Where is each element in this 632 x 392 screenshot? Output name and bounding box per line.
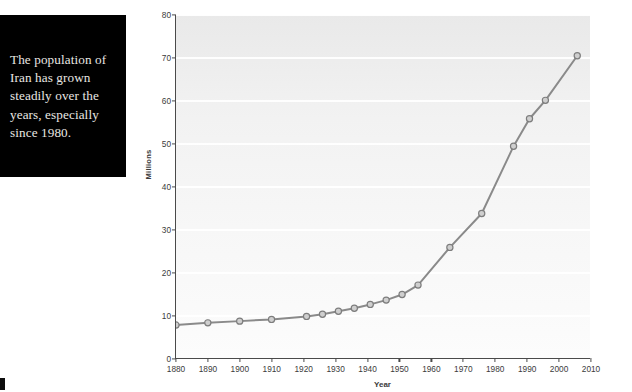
x-tick-mark — [239, 358, 240, 362]
y-tick-label: 10 — [162, 311, 171, 321]
x-tick-label: 1910 — [263, 364, 281, 374]
x-tick-label: 1890 — [199, 364, 217, 374]
corner-mark — [0, 378, 5, 390]
data-point-marker — [367, 301, 373, 307]
x-tick-label: 1960 — [422, 364, 440, 374]
data-point-marker — [510, 143, 516, 149]
x-tick-label: 1940 — [358, 364, 376, 374]
data-point-marker — [415, 282, 421, 288]
data-point-marker — [351, 305, 357, 311]
data-point-marker — [526, 116, 532, 122]
data-point-marker — [176, 322, 179, 328]
y-tick-label: 30 — [162, 225, 171, 235]
y-tick-mark — [172, 57, 176, 58]
x-tick-mark — [367, 358, 368, 362]
plot-inner — [176, 15, 590, 358]
data-point-marker — [479, 210, 485, 216]
x-tick-mark — [463, 358, 464, 362]
x-tick-mark — [303, 358, 304, 362]
x-tick-mark — [527, 358, 528, 362]
y-tick-mark — [172, 229, 176, 230]
data-point-marker — [303, 313, 309, 319]
y-tick-label: 60 — [162, 96, 171, 106]
data-point-marker — [447, 244, 453, 250]
y-tick-mark — [172, 272, 176, 273]
x-tick-mark — [590, 358, 591, 362]
x-tick-label: 1970 — [454, 364, 472, 374]
x-tick-label: 2010 — [582, 364, 600, 374]
data-point-marker — [237, 318, 243, 324]
x-tick-mark — [207, 358, 208, 362]
series-line — [176, 56, 577, 325]
x-tick-label: 1990 — [518, 364, 536, 374]
data-point-marker — [319, 311, 325, 317]
data-point-marker — [268, 316, 274, 322]
data-point-marker — [399, 291, 405, 297]
caption-panel: The population of Iran has grown steadil… — [0, 15, 126, 177]
x-tick-mark — [431, 358, 432, 362]
data-point-marker — [335, 308, 341, 314]
x-tick-label: 2000 — [550, 364, 568, 374]
x-tick-label: 1950 — [390, 364, 408, 374]
y-tick-label: 80 — [162, 10, 171, 20]
x-tick-label: 1900 — [231, 364, 249, 374]
y-tick-label: 0 — [166, 354, 171, 364]
x-tick-label: 1920 — [294, 364, 312, 374]
y-tick-mark — [172, 186, 176, 187]
x-axis-title: Year — [175, 380, 590, 389]
x-tick-mark — [335, 358, 336, 362]
y-tick-mark — [172, 143, 176, 144]
y-tick-label: 70 — [162, 53, 171, 63]
y-tick-label: 20 — [162, 268, 171, 278]
y-tick-label: 40 — [162, 182, 171, 192]
x-tick-mark — [271, 358, 272, 362]
x-tick-mark — [175, 358, 176, 362]
x-tick-label: 1880 — [167, 364, 185, 374]
caption-text: The population of Iran has grown steadil… — [10, 51, 120, 142]
y-tick-mark — [172, 100, 176, 101]
plot-area: 01020304050607080 1880189019001910192019… — [175, 15, 590, 359]
x-tick-mark — [558, 358, 559, 362]
x-tick-label: 1930 — [326, 364, 344, 374]
data-point-marker — [383, 297, 389, 303]
series-layer — [176, 15, 590, 358]
population-line-chart: Millions 01020304050607080 1880189019001… — [134, 8, 614, 384]
x-tick-label: 1980 — [486, 364, 504, 374]
data-point-marker — [542, 97, 548, 103]
x-tick-mark — [399, 358, 400, 362]
y-tick-label: 50 — [162, 139, 171, 149]
y-tick-mark — [172, 315, 176, 316]
y-axis-title: Millions — [144, 135, 153, 195]
data-point-marker — [574, 53, 580, 59]
page-root: The population of Iran has grown steadil… — [0, 0, 632, 392]
x-tick-mark — [495, 358, 496, 362]
y-tick-mark — [172, 14, 176, 15]
data-point-marker — [205, 320, 211, 326]
